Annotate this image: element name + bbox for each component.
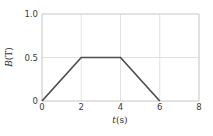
- y-tick-label-0: 0: [18, 97, 38, 106]
- x-axis-title: t(s): [112, 116, 127, 125]
- x-axis-title-unit: (s): [116, 115, 128, 125]
- y-tick-label-0p5: 0.5: [18, 53, 38, 62]
- y-axis-title-symbol: B: [4, 60, 14, 67]
- x-tick-label-0: 0: [39, 103, 44, 112]
- chart-figure: 0 2 4 6 8 1.0 0.5 0 t(s) B(T): [0, 0, 213, 136]
- y-axis-title-unit: (T): [4, 47, 14, 60]
- plot-canvas: [0, 0, 213, 136]
- x-tick-label-8: 8: [196, 103, 201, 112]
- x-tick-label-2: 2: [79, 103, 84, 112]
- x-tick-label-4: 4: [118, 103, 123, 112]
- y-tick-label-1p0: 1.0: [18, 10, 38, 19]
- x-tick-label-6: 6: [157, 103, 162, 112]
- y-axis-title: B(T): [5, 47, 14, 67]
